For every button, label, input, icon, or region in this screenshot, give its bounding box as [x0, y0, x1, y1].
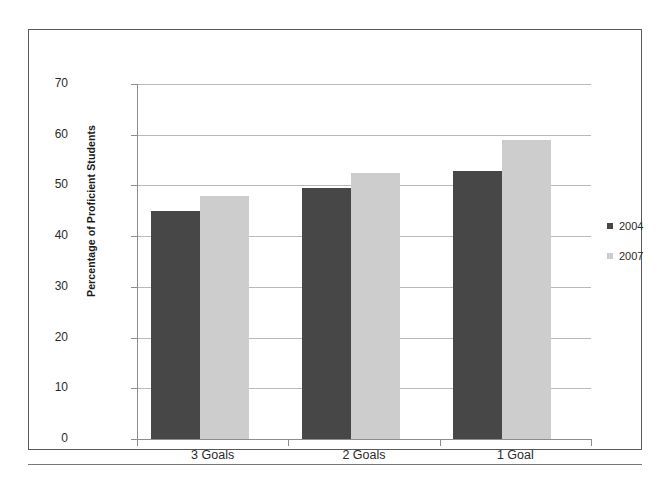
bar-2004-2-goals: [302, 188, 351, 439]
x-tick-mark-1: [288, 439, 289, 446]
y-tick-mark-10: [131, 388, 137, 389]
y-tick-mark-40: [131, 236, 137, 237]
gridline-70: [137, 84, 591, 85]
y-tick-mark-60: [131, 135, 137, 136]
x-category-label-3-goals: 3 Goals: [137, 448, 288, 462]
bar-2007-1-goal: [502, 140, 551, 439]
gridline-60: [137, 135, 591, 136]
x-tick-mark-origin: [137, 439, 138, 446]
bar-2007-3-goals: [200, 196, 249, 439]
x-tick-mark-2: [440, 439, 441, 446]
y-axis-title: Percentage of Proficient Students: [85, 101, 97, 321]
y-tick-label-50: 50: [8, 177, 68, 191]
y-tick-label-70: 70: [8, 76, 68, 90]
bar-2004-1-goal: [453, 171, 502, 439]
y-tick-label-60: 60: [8, 127, 68, 141]
y-tick-label-30: 30: [8, 279, 68, 293]
x-category-label-1-goal: 1 Goal: [440, 448, 591, 462]
y-tick-label-40: 40: [8, 228, 68, 242]
y-axis-line: [137, 84, 138, 440]
legend-item-2007: 2007: [607, 241, 643, 271]
y-tick-mark-70: [131, 84, 137, 85]
legend-swatch-2004: [607, 223, 613, 229]
y-tick-mark-50: [131, 185, 137, 186]
legend-swatch-2007: [607, 253, 613, 259]
y-tick-mark-20: [131, 338, 137, 339]
figure-bottom-rule: [28, 464, 642, 465]
x-category-label-2-goals: 2 Goals: [288, 448, 439, 462]
chart-legend: 2004 2007: [607, 211, 643, 271]
plot-area: [137, 84, 591, 439]
figure-frame: 706050403020100 3 Goals2 Goals1 Goal Per…: [28, 29, 642, 450]
y-tick-mark-30: [131, 287, 137, 288]
y-tick-label-10: 10: [8, 380, 68, 394]
bar-2007-2-goals: [351, 173, 400, 439]
x-tick-mark-3: [591, 439, 592, 446]
legend-item-2004: 2004: [607, 211, 643, 241]
bar-2004-3-goals: [151, 211, 200, 439]
y-tick-label-20: 20: [8, 330, 68, 344]
gridline-0: [137, 439, 591, 440]
y-tick-label-0: 0: [8, 431, 68, 445]
legend-label-2007: 2007: [619, 251, 643, 262]
legend-label-2004: 2004: [619, 221, 643, 232]
